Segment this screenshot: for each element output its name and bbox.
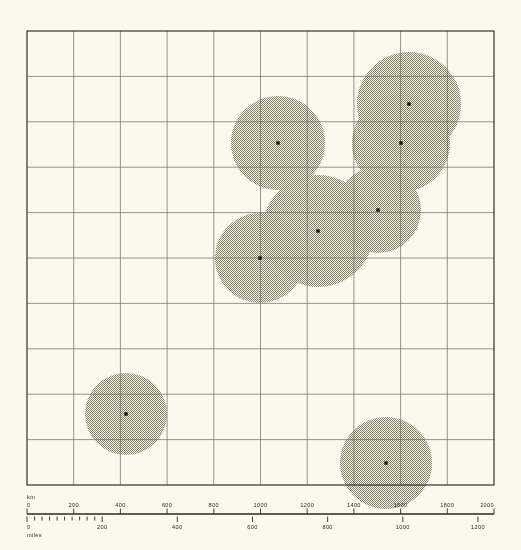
figure-canvas: 0200400600800100012001400160018002000km0… (0, 0, 521, 550)
site-centre-marker (376, 208, 379, 211)
km-tick-label: 0 (27, 502, 30, 508)
km-tick-label: 600 (162, 502, 172, 508)
km-tick-label: 1200 (300, 502, 314, 508)
km-tick-label: 1800 (440, 502, 454, 508)
km-tick-label: 400 (115, 502, 125, 508)
miles-tick-label: 800 (322, 524, 332, 530)
miles-tick-label: 600 (247, 524, 257, 530)
km-unit-label: km (27, 494, 35, 500)
km-tick-label: 1000 (254, 502, 268, 508)
miles-tick-label: 0 (27, 524, 30, 530)
site-centre-marker (258, 256, 261, 259)
miles-unit-label: miles (27, 532, 42, 538)
site-centre-marker (384, 461, 387, 464)
km-tick-label: 2000 (480, 502, 494, 508)
site-centre-marker (316, 229, 319, 232)
site-centre-marker (407, 102, 410, 105)
map-distribution-figure: 0200400600800100012001400160018002000km0… (0, 0, 521, 550)
km-tick-label: 1400 (347, 502, 361, 508)
km-tick-label: 800 (209, 502, 219, 508)
site-centre-marker (276, 141, 279, 144)
km-tick-label: 200 (69, 502, 79, 508)
km-tick-label: 1600 (394, 502, 408, 508)
miles-tick-label: 200 (97, 524, 107, 530)
miles-tick-label: 400 (172, 524, 182, 530)
miles-tick-label: 1000 (396, 524, 410, 530)
miles-tick-label: 1200 (471, 524, 485, 530)
site-centre-marker (124, 412, 127, 415)
site-centre-marker (399, 141, 402, 144)
